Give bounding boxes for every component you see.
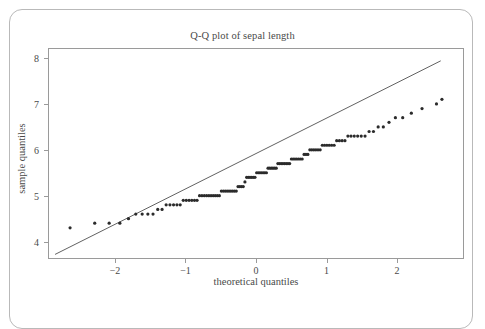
data-point: [319, 148, 322, 151]
data-point: [118, 222, 121, 225]
data-point: [195, 199, 198, 202]
x-tick-mark: [115, 259, 116, 263]
data-point: [346, 134, 349, 137]
data-point: [301, 157, 304, 160]
data-point: [243, 180, 246, 183]
data-point: [420, 107, 423, 110]
y-tick-mark: [44, 242, 48, 243]
data-point: [165, 203, 168, 206]
data-point: [360, 134, 363, 137]
x-tick-mark: [397, 259, 398, 263]
data-point: [185, 199, 188, 202]
x-tick-label: −2: [102, 265, 128, 276]
x-tick-label: 2: [384, 265, 410, 276]
data-point: [108, 222, 111, 225]
y-tick-mark: [44, 104, 48, 105]
data-point: [93, 222, 96, 225]
data-point: [218, 194, 221, 197]
data-point: [182, 199, 185, 202]
x-tick-mark: [327, 259, 328, 263]
y-tick-mark: [44, 150, 48, 151]
data-point: [349, 134, 352, 137]
y-axis-label: sample quantiles: [16, 94, 27, 224]
data-point: [338, 139, 341, 142]
data-point: [172, 203, 175, 206]
x-tick-label: 1: [314, 265, 340, 276]
plot-data-area: [48, 48, 464, 259]
x-tick-mark: [185, 259, 186, 263]
data-point: [363, 134, 366, 137]
data-point: [179, 203, 182, 206]
data-point: [401, 116, 404, 119]
data-point: [288, 162, 291, 165]
y-tick-mark: [44, 196, 48, 197]
data-point: [377, 125, 380, 128]
data-point: [134, 212, 137, 215]
data-point: [435, 102, 438, 105]
x-axis-label: theoretical quantiles: [48, 276, 464, 287]
data-point: [394, 116, 397, 119]
data-point: [353, 134, 356, 137]
data-point: [410, 112, 413, 115]
y-tick-label: 4: [17, 236, 39, 247]
data-points: [68, 98, 443, 230]
data-point: [265, 171, 268, 174]
data-point: [151, 212, 154, 215]
data-point: [275, 167, 278, 170]
y-tick-label: 8: [17, 53, 39, 64]
data-point: [146, 212, 149, 215]
data-point: [306, 153, 309, 156]
data-point: [242, 185, 245, 188]
data-point: [175, 203, 178, 206]
data-point: [382, 125, 385, 128]
data-point: [387, 121, 390, 124]
data-point: [160, 208, 163, 211]
data-point: [156, 208, 159, 211]
data-point: [127, 217, 130, 220]
data-point: [356, 134, 359, 137]
x-tick-label: 0: [243, 265, 269, 276]
page-title: Q-Q plot of sepal length: [0, 30, 485, 41]
y-tick-mark: [44, 58, 48, 59]
data-point: [368, 130, 371, 133]
data-point: [68, 226, 71, 229]
data-point: [235, 190, 238, 193]
data-point: [341, 139, 344, 142]
x-tick-mark: [256, 259, 257, 263]
reference-line-segment: [55, 61, 441, 255]
data-point: [343, 139, 346, 142]
data-point: [440, 98, 443, 101]
data-point: [168, 203, 171, 206]
data-point: [141, 212, 144, 215]
data-point: [333, 144, 336, 147]
data-point: [372, 130, 375, 133]
data-point: [253, 176, 256, 179]
reference-line: [55, 61, 441, 255]
x-tick-label: −1: [172, 265, 198, 276]
data-point: [187, 199, 190, 202]
